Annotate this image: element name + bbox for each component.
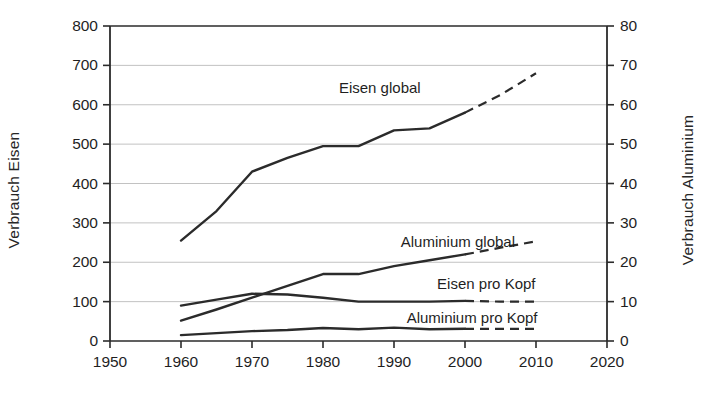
y-axis-left-tick-label-0: 0 [89, 332, 98, 350]
y-axis-left-tick-label-200: 200 [72, 253, 98, 271]
y-axis-left-tick-label-300: 300 [72, 214, 98, 232]
y-axis-right-tick-label-80: 80 [620, 17, 637, 35]
series-label-aluminium-pro-kopf: Aluminium pro Kopf [407, 308, 538, 325]
series-label-eisen-global: Eisen global [339, 79, 421, 96]
series-line-aluminium-pro-kopf [181, 328, 465, 335]
y-axis-left-tick-label-100: 100 [72, 293, 98, 311]
y-axis-right-tick-label-10: 10 [620, 293, 637, 311]
x-axis-tick-label-2020: 2020 [590, 353, 624, 371]
y-axis-left-tick-label-700: 700 [72, 56, 98, 74]
y-axis-left-title: Verbrauch Eisen [5, 132, 23, 249]
line-chart-plot [0, 0, 708, 405]
x-axis-tick-label-2010: 2010 [519, 353, 553, 371]
y-axis-left-tick-label-400: 400 [72, 175, 98, 193]
y-axis-left-tick-label-800: 800 [72, 17, 98, 35]
y-axis-right-tick-label-30: 30 [620, 214, 637, 232]
x-axis-tick-label-1970: 1970 [235, 353, 269, 371]
y-axis-right-tick-label-50: 50 [620, 135, 637, 153]
y-axis-right-tick-label-60: 60 [620, 96, 637, 114]
x-axis-tick-label-1960: 1960 [164, 353, 198, 371]
y-axis-left-tick-label-600: 600 [72, 96, 98, 114]
series-label-aluminium-global: Aluminium global [401, 232, 515, 249]
axis-ticks-group [103, 26, 614, 348]
series-line-eisen-pro-kopf [181, 294, 465, 306]
chart-figure: Verbrauch Eisen Verbrauch Aluminium 0100… [0, 0, 708, 405]
x-axis-tick-label-1990: 1990 [377, 353, 411, 371]
series-line-eisen-global [181, 113, 465, 241]
x-axis-tick-label-1950: 1950 [93, 353, 127, 371]
x-axis-tick-label-1980: 1980 [306, 353, 340, 371]
y-axis-right-tick-label-0: 0 [620, 332, 629, 350]
y-axis-right-title: Verbrauch Aluminium [679, 115, 697, 265]
y-axis-right-tick-label-20: 20 [620, 253, 637, 271]
y-axis-right-tick-label-70: 70 [620, 56, 637, 74]
series-label-eisen-pro-kopf: Eisen pro Kopf [437, 274, 535, 291]
series-line-dashed-eisen-global [465, 73, 536, 112]
data-series-group [181, 73, 536, 335]
y-axis-left-tick-label-500: 500 [72, 135, 98, 153]
gridlines-group [110, 65, 607, 301]
y-axis-right-tick-label-40: 40 [620, 175, 637, 193]
x-axis-tick-label-2000: 2000 [448, 353, 482, 371]
